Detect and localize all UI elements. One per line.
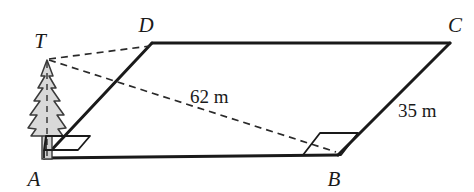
right-angle-at-B [303,133,358,155]
parallelogram-outline [44,43,450,158]
vertex-label-A: A [26,167,41,191]
label-62m: 62 m [190,86,229,107]
label-35m: 35 m [398,100,437,121]
vertex-label-C: C [448,13,463,37]
vertex-label-T: T [34,29,47,53]
pine-tree [28,60,66,159]
vertex-label-D: D [137,13,153,37]
right-angle-marker-B-plane [303,133,358,155]
edge-A-B [44,155,338,158]
geometry-canvas: A B C D T 62 m 35 m [0,0,474,192]
segment-T-D [49,46,150,59]
geometry-figure: A B C D T 62 m 35 m [0,0,474,192]
vertex-label-B: B [328,167,341,191]
